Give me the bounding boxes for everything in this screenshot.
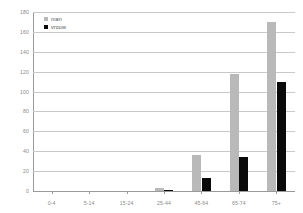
bar-group	[42, 12, 61, 191]
x-axis-tick-mark	[239, 191, 240, 194]
bar-man-45-64	[192, 155, 201, 191]
y-axis-tick-label: 160	[20, 29, 29, 35]
x-axis-tick-label: 75+	[272, 200, 281, 206]
bar-man-75+	[267, 22, 276, 191]
y-axis-tick-label: 140	[20, 49, 29, 55]
x-axis-tick-label: 25-44	[157, 200, 171, 206]
bar-vrouw-65-74	[239, 157, 248, 191]
x-axis-tick-mark	[89, 191, 90, 194]
bar-vrouw-45-64	[202, 178, 211, 191]
legend-swatch-vrouw-icon	[44, 25, 48, 29]
plot-area: 020406080100120140160180 0-45-1415-2425-…	[33, 12, 295, 191]
legend-item-man: man	[44, 15, 66, 23]
y-axis-tick-label: 40	[23, 148, 29, 154]
y-axis-tick-label: 100	[20, 89, 29, 95]
x-axis-tick-label: 15-24	[120, 200, 134, 206]
y-axis-tick-label: 0	[26, 188, 29, 194]
legend-swatch-man-icon	[44, 17, 48, 21]
bar-man-25-44	[155, 188, 164, 191]
x-axis-tick-label: 5-14	[84, 200, 95, 206]
y-axis-tick-label: 20	[23, 168, 29, 174]
x-axis-tick-mark	[127, 191, 128, 194]
bar-group	[155, 12, 174, 191]
y-axis-tick-label: 180	[20, 9, 29, 15]
y-axis-tick-label: 120	[20, 69, 29, 75]
legend-item-vrouw: vrouw	[44, 23, 66, 31]
x-axis-tick-mark	[276, 191, 277, 194]
y-axis-tick-label: 80	[23, 108, 29, 114]
x-axis-tick-mark	[164, 191, 165, 194]
bar-group	[117, 12, 136, 191]
x-axis-tick-label: 65-74	[232, 200, 246, 206]
bar-vrouw-75+	[277, 82, 286, 191]
bar-group	[192, 12, 211, 191]
bar-group	[267, 12, 286, 191]
bar-chart: 020406080100120140160180 0-45-1415-2425-…	[0, 0, 303, 213]
legend-label-vrouw: vrouw	[51, 24, 66, 30]
x-axis-tick-label: 45-64	[195, 200, 209, 206]
bar-vrouw-25-44	[164, 190, 173, 191]
chart-legend: man vrouw	[44, 15, 66, 31]
bar-man-65-74	[230, 74, 239, 191]
bar-group	[230, 12, 249, 191]
x-axis-tick-mark	[52, 191, 53, 194]
legend-label-man: man	[51, 16, 62, 22]
x-axis-tick-label: 0-4	[48, 200, 56, 206]
x-axis-tick-mark	[201, 191, 202, 194]
bar-group	[80, 12, 99, 191]
y-axis-tick-label: 60	[23, 128, 29, 134]
